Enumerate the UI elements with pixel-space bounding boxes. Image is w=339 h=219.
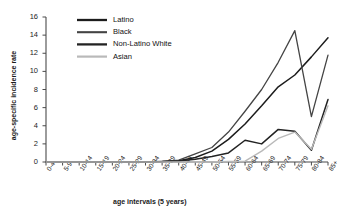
series-line-non-latino-white xyxy=(46,99,328,162)
series-line-black xyxy=(46,31,328,162)
series-line-asian xyxy=(46,106,328,162)
